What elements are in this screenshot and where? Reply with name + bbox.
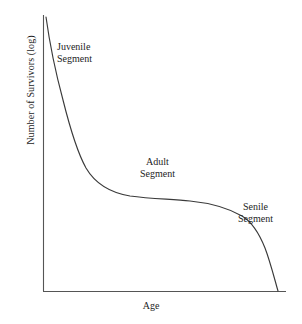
annotation-senile-segment: Senile Segment bbox=[238, 201, 273, 224]
annotation-juvenile-line1: Juvenile bbox=[57, 41, 92, 53]
y-axis-label-wrapper: Number of Survivors (log) bbox=[20, 0, 40, 200]
annotation-juvenile-segment: Juvenile Segment bbox=[57, 41, 92, 64]
annotation-senile-line1: Senile bbox=[238, 201, 273, 213]
y-axis-label: Number of Survivors (log) bbox=[25, 35, 36, 144]
x-axis-label: Age bbox=[0, 300, 302, 311]
annotation-juvenile-line2: Segment bbox=[57, 53, 92, 65]
annotation-senile-line2: Segment bbox=[238, 213, 273, 225]
annotation-adult-line2: Segment bbox=[140, 168, 175, 180]
annotation-adult-line1: Adult bbox=[140, 156, 175, 168]
annotation-adult-segment: Adult Segment bbox=[140, 156, 175, 179]
survivorship-curve-figure: Juvenile Segment Adult Segment Senile Se… bbox=[0, 0, 302, 324]
